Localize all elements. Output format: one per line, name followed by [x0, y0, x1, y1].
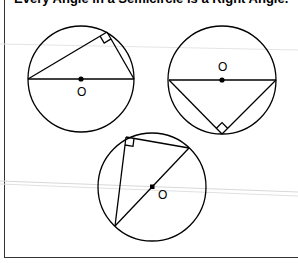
circle-diagram-3	[98, 133, 206, 241]
chord	[126, 137, 189, 148]
circle-diagram-2	[168, 26, 276, 134]
center-label: O	[158, 188, 167, 202]
center-point	[78, 76, 83, 81]
chord	[169, 80, 222, 134]
center-point	[150, 185, 155, 190]
chord	[222, 80, 276, 134]
center-label: O	[77, 85, 86, 99]
center-point	[219, 77, 224, 82]
circle-diagram-1	[28, 26, 134, 132]
semicircle-diagrams: O O O	[0, 0, 298, 263]
right-angle-mark	[216, 123, 227, 129]
chord	[28, 32, 107, 79]
chord	[115, 137, 126, 226]
artifact-line	[0, 44, 298, 50]
center-label: O	[218, 60, 227, 74]
